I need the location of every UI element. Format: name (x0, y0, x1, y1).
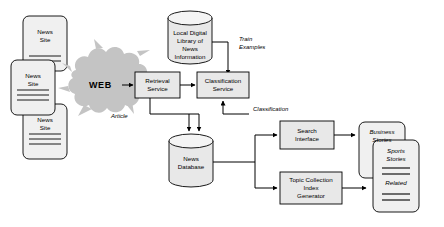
local-library-cylinder (168, 11, 212, 64)
classification-service-box (197, 72, 249, 98)
edge-database-to-search (213, 135, 277, 162)
business-stories-label: Business Stories (359, 128, 405, 144)
edge-classification-feedback (223, 101, 249, 114)
sports-stories-label: Sports Stories (373, 147, 419, 163)
edge-label-classification: Classification (253, 106, 288, 114)
edge-database-to-topic (255, 162, 277, 188)
related-stories-label: Related (373, 179, 419, 187)
news-site-card-front-label: News Site (11, 72, 55, 88)
news-database-cylinder (169, 134, 213, 187)
edge-article-bus (150, 98, 199, 114)
edge-label-train-examples: Train Examples (239, 36, 265, 52)
news-site-card-bottom-label: News Site (23, 116, 67, 132)
retrieval-service-box (135, 72, 180, 98)
news-site-card-back-label: News Site (23, 28, 67, 44)
search-interface-box (280, 121, 334, 149)
web-label: WEB (89, 80, 112, 90)
topic-collection-box (280, 172, 342, 204)
edge-label-article: Article (111, 113, 128, 121)
diagram-canvas: News Site News Site News Site WEB Local … (0, 0, 444, 227)
edge-library-to-classification (212, 42, 228, 74)
